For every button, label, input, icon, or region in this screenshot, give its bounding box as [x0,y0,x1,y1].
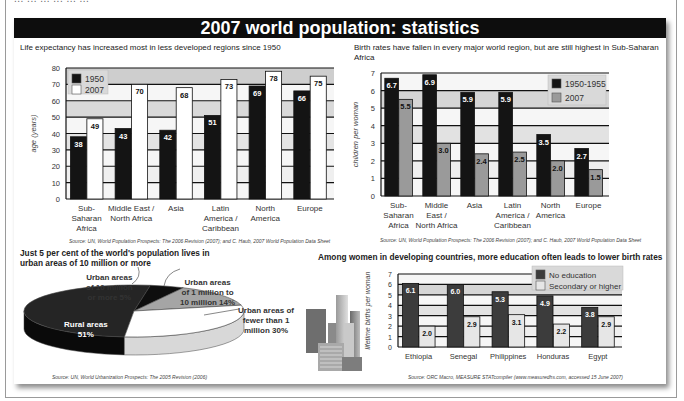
page-title: 2007 world population: statistics [14,18,666,38]
bar [87,119,103,199]
bar [423,75,437,196]
education-title: Among women in developing countries, mor… [318,252,668,262]
x-tick-label: East / [426,211,447,220]
grid-band [398,295,622,305]
bar-value-label: 3.8 [585,311,595,318]
y-tick-label: 7 [371,69,375,78]
birth-rates-chart: 01234567children per woman6.76.95.95.93.… [346,60,666,235]
y-tick-label: 50 [52,113,60,122]
clipped-header-text: ... ... ... ... ... ... [14,0,89,4]
bar-value-label: 73 [225,82,233,91]
bar-value-label: 69 [253,89,261,98]
bar [294,91,310,199]
y-axis-label: children per woman [351,102,360,167]
x-tick-label: Asia [168,204,184,213]
y-tick-label: 1 [388,334,392,341]
legend-swatch [552,79,561,88]
legend-swatch [536,270,545,279]
x-tick-label: Honduras [537,352,570,361]
bar-value-label: 68 [180,91,188,100]
y-tick-label: 6 [388,281,392,288]
x-tick-label: Europe [576,201,602,210]
bar-value-label: 78 [269,74,277,83]
leader-line [132,267,139,284]
y-tick-label: 60 [52,97,60,106]
legend-label: 2007 [85,85,104,95]
urban-source: Source: UN, World Urbanization Prospects… [52,374,207,380]
y-axis-label: age (years) [29,114,38,152]
bar-value-label: 49 [91,122,99,131]
bar-value-label: 2.9 [467,321,477,328]
bar-value-label: 42 [164,133,172,142]
bar-value-label: 6.1 [406,287,416,294]
x-tick-label: Sub- [78,204,95,213]
bar [221,79,237,199]
y-tick-label: 6 [371,87,375,96]
bar [249,86,265,199]
bar-value-label: 6.7 [386,81,396,90]
legend-label: 1950 [85,74,104,84]
legend-label: 1950-1955 [565,79,606,89]
chart-legend: 19502007 [68,70,108,95]
y-tick-label: 0 [371,192,375,201]
y-tick-label: 20 [52,162,60,171]
x-tick-label: North [255,204,275,213]
y-tick-label: 3 [388,313,392,320]
bar [132,84,148,199]
life-expectancy-title: Life expectancy has increased most in le… [20,43,340,53]
y-tick-label: 2 [371,157,375,166]
city-buildings-illustration [304,293,364,373]
x-tick-label: Caribbean [494,221,531,230]
bar-value-label: 2.0 [552,164,562,173]
education-birth-chart: 01234567lifetime births per woman6.16.05… [362,266,662,376]
y-tick-label: 3 [371,139,375,148]
infographic-card: 2007 world population: statistics Life e… [14,18,666,384]
bar [176,88,192,199]
bar-value-label: 3.5 [538,138,548,147]
x-tick-label: Latin [504,201,521,210]
bar-value-label: 2.9 [601,321,611,328]
bar-value-label: 5.9 [462,95,472,104]
y-tick-label: 5 [371,104,375,113]
urban-title: Just 5 per cent of the world's populatio… [20,248,310,268]
y-tick-label: 4 [371,122,375,131]
x-tick-label: Asia [467,201,483,210]
pie-label-big: Urban areasof 10 millionor more 5% [86,273,133,303]
life-expectancy-chart: 01020304050607080age (years)384342516966… [14,60,334,230]
x-tick-label: Middle East / [108,204,155,213]
bar-value-label: 2.7 [576,152,586,161]
bar-value-label: 5.9 [500,95,510,104]
x-tick-label: Saharan [383,211,413,220]
y-tick-label: 30 [52,146,60,155]
x-tick-label: North [541,201,561,210]
pie-label-rural: Rural areas51% [64,320,108,340]
legend-swatch [72,85,81,94]
legend-label: Secondary or higher [549,282,621,291]
bar-value-label: 51 [208,118,216,127]
x-tick-label: Africa [76,224,97,233]
x-tick-label: Saharan [71,214,101,223]
bar-value-label: 66 [298,94,306,103]
x-tick-label: Middle [425,201,449,210]
y-tick-label: 40 [52,130,60,139]
x-tick-label: America / [496,211,531,220]
bar [399,99,413,196]
x-tick-label: Sub- [390,201,407,210]
life-expectancy-source: Source: UN, World Population Prospects: … [69,238,330,244]
x-tick-label: Europe [297,204,323,213]
pie-label-mid: Urban areasof 1 million to10 million 14% [180,278,235,308]
legend-label: 2007 [565,93,584,103]
bar-value-label: 5.5 [400,102,410,111]
bar-value-label: 4.9 [540,300,550,307]
bar-value-label: 2.5 [514,155,524,164]
birth-rates-source: Source: UN, World Population Prospects: … [380,237,641,243]
x-tick-label: America / [204,214,239,223]
y-tick-label: 5 [388,292,392,299]
bar-value-label: 3.0 [438,146,448,155]
bar-value-label: 75 [314,79,322,88]
x-tick-label: Caribbean [202,224,239,233]
x-tick-label: North Africa [110,214,152,223]
bar [385,78,399,196]
legend-swatch [552,93,561,102]
y-tick-label: 70 [52,80,60,89]
